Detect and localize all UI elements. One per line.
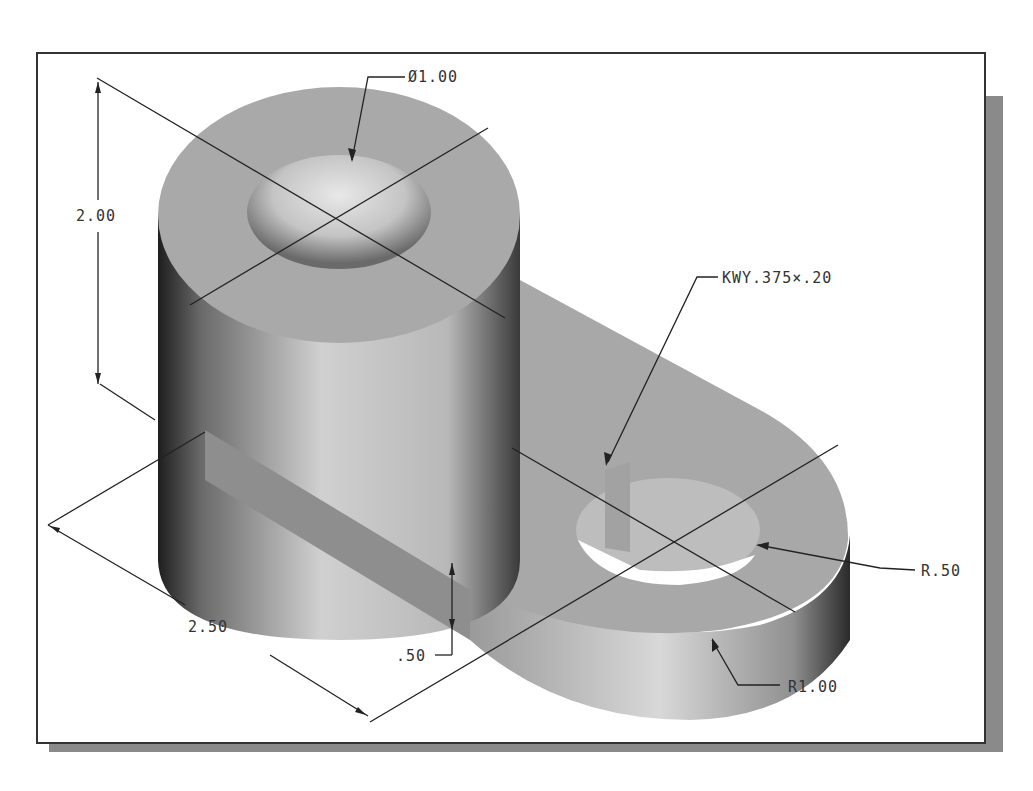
dim-arm-end-radius: R1.00 (788, 678, 838, 696)
part-drawing: Ø1.00 2.00 KWY.375×.20 R.50 R1.00 2.50 .… (0, 0, 1033, 791)
dim-length: 2.50 (188, 618, 228, 636)
dim-arm-thickness: .50 (396, 647, 426, 665)
dim-hole-radius: R.50 (921, 562, 961, 580)
dim-height: 2.00 (76, 207, 116, 225)
dim-bore-diameter: Ø1.00 (408, 68, 458, 86)
dim-keyway: KWY.375×.20 (722, 269, 832, 287)
cylinder-boss (158, 87, 520, 640)
